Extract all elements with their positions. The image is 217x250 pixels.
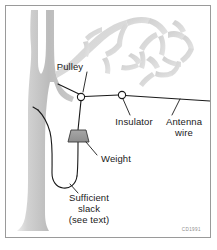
pulley-icon [77, 93, 84, 100]
label-antenna-wire-line1: Antenna [166, 116, 203, 127]
label-insulator: Insulator [115, 116, 152, 127]
label-slack-line1: Sufficient [69, 192, 109, 203]
antenna-support-diagram: Pulley Insulator Antenna wire Weight Suf… [0, 0, 217, 250]
figure-credit: CD1991 [182, 227, 201, 232]
label-antenna-wire-line2: wire [174, 127, 193, 138]
label-slack-line2: slack [78, 203, 100, 214]
label-pulley: Pulley [57, 61, 84, 72]
insulator-icon [118, 91, 125, 98]
figure-container: Pulley Insulator Antenna wire Weight Suf… [0, 0, 217, 250]
weight-icon [68, 130, 89, 142]
label-slack-line3: (see text) [69, 214, 110, 225]
label-weight: Weight [101, 153, 131, 164]
